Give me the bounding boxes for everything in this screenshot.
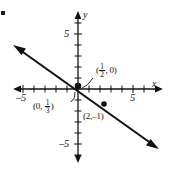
- graph-figure: y x –5 5 5 –5 (12, 0) (0, 13) (2,–1): [0, 0, 170, 170]
- axis-y-arrow-down: [75, 155, 82, 163]
- fraction-one-half: 12: [99, 63, 105, 80]
- point-label-2-neg1: (2,–1): [83, 112, 104, 121]
- point-label-y-intercept-close: ): [51, 101, 54, 111]
- point-marker-2-neg1: [101, 101, 107, 107]
- x-tick-label-5: 5: [130, 93, 135, 104]
- point-label-y-intercept: (0, 13): [33, 99, 54, 116]
- point-label-y-intercept-open: (0,: [33, 101, 44, 111]
- point-label-x-intercept-close: , 0): [105, 65, 116, 75]
- graph-canvas: [0, 0, 170, 170]
- fraction-one-third: 13: [45, 99, 51, 116]
- fraction-one-half-denominator: 2: [99, 70, 105, 79]
- y-tick-label-neg5: –5: [59, 139, 69, 150]
- axis-label-x: x: [152, 79, 156, 89]
- axis-y-arrow-up: [75, 11, 82, 19]
- point-label-x-intercept: (12, 0): [96, 63, 117, 80]
- axis-label-y: y: [83, 10, 87, 20]
- point-marker-y-intercept: [75, 83, 82, 90]
- y-tick-label-5: 5: [64, 29, 69, 40]
- fraction-one-half-numerator: 1: [99, 63, 105, 71]
- fraction-one-third-numerator: 1: [45, 99, 51, 107]
- fraction-one-third-denominator: 3: [45, 106, 51, 115]
- leader-line-x-intercept: [82, 78, 93, 88]
- x-tick-label-neg5: –5: [16, 93, 26, 104]
